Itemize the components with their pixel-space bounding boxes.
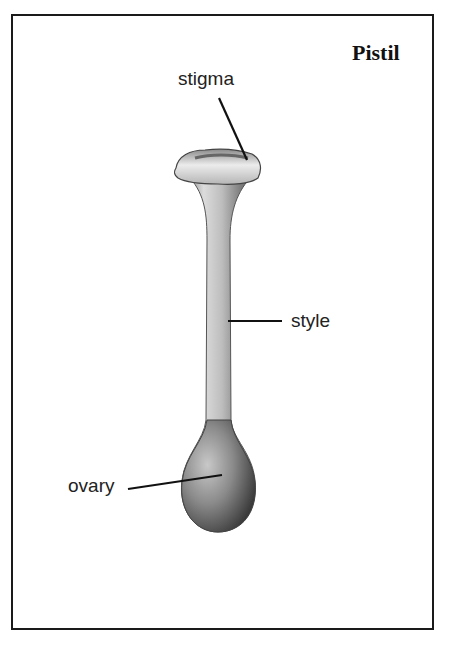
- diagram-title: Pistil: [352, 40, 400, 66]
- ovary-label: ovary: [68, 475, 114, 497]
- pistil-illustration: [0, 0, 449, 646]
- style-label: style: [291, 310, 330, 332]
- stigma-label: stigma: [178, 68, 234, 90]
